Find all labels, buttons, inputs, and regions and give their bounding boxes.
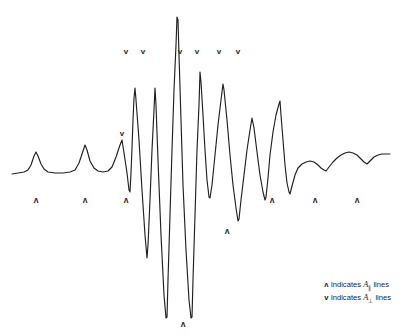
- marker-parallel-5: ʌ: [270, 195, 275, 205]
- marker-perpendicular-4: v: [195, 47, 200, 56]
- legend: ʌ Indicates A∥ lines v Indicates A⊥ line…: [324, 280, 391, 306]
- marker-perpendicular-1: v: [124, 47, 129, 56]
- marker-perpendicular-3: v: [178, 47, 183, 56]
- legend-text-before-perpendicular: Indicates: [329, 293, 364, 302]
- marker-parallel-2: ʌ: [124, 195, 129, 205]
- legend-text-after-parallel: lines: [371, 280, 389, 289]
- marker-perpendicular-6: v: [236, 47, 241, 56]
- marker-perpendicular-0: v: [120, 129, 125, 138]
- legend-row-parallel: ʌ Indicates A∥ lines: [324, 280, 391, 293]
- marker-perpendicular-5: v: [217, 47, 222, 56]
- marker-parallel-7: ʌ: [355, 195, 360, 205]
- marker-parallel-0: ʌ: [34, 195, 39, 205]
- legend-row-perpendicular: v Indicates A⊥ lines: [324, 293, 391, 306]
- marker-perpendicular-2: v: [141, 47, 146, 56]
- marker-parallel-1: ʌ: [83, 195, 88, 205]
- marker-parallel-6: ʌ: [313, 195, 318, 205]
- legend-text-after-perpendicular: lines: [373, 293, 391, 302]
- esr-spectrum-figure: ʌʌʌʌʌʌʌʌ vvvvvvv ʌ Indicates A∥ lines v …: [0, 0, 403, 336]
- legend-text-before-parallel: Indicates: [329, 280, 364, 289]
- marker-parallel-4: ʌ: [225, 226, 230, 236]
- marker-parallel-3: ʌ: [181, 319, 186, 329]
